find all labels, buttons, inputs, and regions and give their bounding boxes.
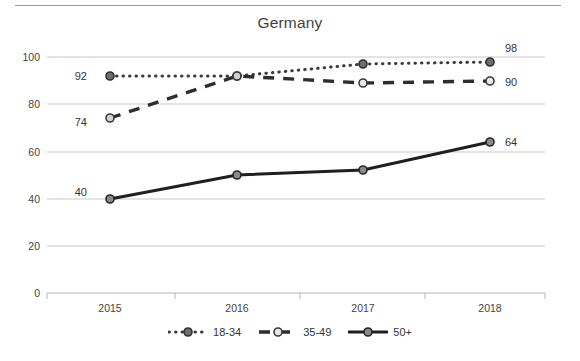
data-point-50-plus-2017 xyxy=(359,166,367,174)
data-label-35-49-2018: 90 xyxy=(505,76,517,88)
y-tick-label-60: 60 xyxy=(28,146,40,158)
series-line-18-34 xyxy=(110,62,490,76)
series-50-plus xyxy=(106,138,494,203)
legend-swatch-dotted-icon xyxy=(168,326,208,338)
y-tick-label-40: 40 xyxy=(28,193,40,205)
chart-container: Germany 100 80 60 40 20 0 xyxy=(0,0,580,361)
gridlines xyxy=(47,57,545,246)
x-axis xyxy=(47,293,545,299)
legend-item-18-34[interactable]: 18-34 xyxy=(168,326,241,338)
data-label-18-34-2015: 92 xyxy=(75,70,87,82)
data-point-35-49-2015 xyxy=(106,114,114,122)
series-18-34 xyxy=(106,58,494,80)
y-axis-labels: 100 80 60 40 20 0 xyxy=(22,51,40,299)
chart-legend: 18-34 35-49 50+ xyxy=(0,326,580,338)
legend-label-18-34: 18-34 xyxy=(213,327,241,338)
data-point-35-49-2017 xyxy=(359,79,367,87)
x-tick-label-2015: 2015 xyxy=(98,302,122,314)
data-point-18-34-2017 xyxy=(359,60,367,68)
legend-swatch-dashed-icon xyxy=(258,326,298,338)
legend-item-35-49[interactable]: 35-49 xyxy=(258,326,331,338)
data-point-50-plus-2016 xyxy=(233,171,241,179)
series-line-50-plus xyxy=(110,142,490,199)
legend-item-50-plus[interactable]: 50+ xyxy=(348,326,412,338)
data-point-35-49-2016 xyxy=(233,72,241,80)
y-tick-label-0: 0 xyxy=(34,287,40,299)
x-axis-labels: 2015 2016 2017 2018 xyxy=(98,302,502,314)
legend-swatch-solid-icon xyxy=(348,326,388,338)
data-point-50-plus-2018 xyxy=(486,138,494,146)
data-label-50-plus-2015: 40 xyxy=(75,186,87,198)
chart-plot-area: 100 80 60 40 20 0 2015 2016 2017 2018 xyxy=(0,0,580,361)
data-label-35-49-2015: 74 xyxy=(75,116,87,128)
data-point-18-34-2018 xyxy=(486,58,494,66)
data-point-18-34-2015 xyxy=(106,72,114,80)
data-label-50-plus-2018: 64 xyxy=(505,136,517,148)
series-line-35-49 xyxy=(110,76,490,118)
y-tick-label-100: 100 xyxy=(22,51,40,63)
y-tick-label-80: 80 xyxy=(28,98,40,110)
data-point-50-plus-2015 xyxy=(106,195,114,203)
series-35-49 xyxy=(106,72,494,122)
x-tick-label-2017: 2017 xyxy=(351,302,375,314)
x-tick-label-2016: 2016 xyxy=(225,302,249,314)
legend-label-50-plus: 50+ xyxy=(393,327,412,338)
data-labels: 92 98 74 90 40 64 xyxy=(75,42,518,198)
data-label-18-34-2018: 98 xyxy=(505,42,517,54)
data-point-35-49-2018 xyxy=(486,77,494,85)
legend-label-35-49: 35-49 xyxy=(303,327,331,338)
y-tick-label-20: 20 xyxy=(28,240,40,252)
x-tick-label-2018: 2018 xyxy=(478,302,502,314)
